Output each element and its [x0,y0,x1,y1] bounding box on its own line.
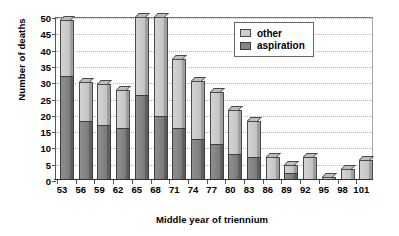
bar-side-face-aspiration [70,76,74,180]
bar-side-face-other [89,82,93,121]
plot-area: 05101520253035404550 [55,17,373,180]
bar-segment-aspiration [79,121,90,180]
x-axis-title: Middle year of triennium [52,214,372,225]
gridline [56,67,372,68]
bar-side-face-other [276,157,280,180]
bar-segment-other [266,157,277,180]
bar-segment-other [228,110,239,154]
y-tick-label: 25 [40,94,56,105]
legend-label-other: other [257,28,282,39]
bar-segment-aspiration [97,125,108,180]
y-tick-label: 50 [40,13,56,24]
y-tick-label: 10 [40,143,56,154]
bar-column [60,20,71,180]
bar-side-face-aspiration [257,157,261,180]
bar-side-face-other [369,160,373,180]
gridline [56,34,372,35]
bar-column [97,84,108,180]
bar-segment-other [303,157,314,180]
bar-segment-aspiration [135,95,146,180]
bar-column [303,157,314,180]
x-tick-label: 101 [350,184,372,195]
bar-side-face-aspiration [238,154,242,180]
bar-side-face-other [313,157,317,180]
chart-legend: other aspiration [234,22,314,57]
gridline [56,18,372,19]
bar-column [135,17,146,180]
bar-column [284,165,295,180]
y-tick-label: 15 [40,127,56,138]
bar-segment-other [79,82,90,121]
legend-item-other: other [240,28,305,39]
bar-side-face-other [220,92,224,144]
legend-swatch-aspiration-icon [240,42,251,50]
bar-segment-other [284,165,295,173]
bar-column [247,121,258,180]
bar-column [154,17,165,180]
bar-segment-aspiration [228,154,239,180]
bar-side-face-other [164,17,168,116]
bar-segment-other [154,17,165,116]
bar-side-face-other [182,59,186,127]
y-tick-label: 20 [40,110,56,121]
bar-segment-aspiration [116,128,127,180]
bar-segment-other [97,84,108,125]
bar-segment-other [247,121,258,157]
bar-segment-aspiration [210,144,221,180]
bar-side-face-aspiration [164,116,168,180]
bar-side-face-other [126,90,130,127]
bar-column [359,160,370,180]
bar-column [266,157,277,180]
bar-column [228,110,239,180]
bar-side-face-aspiration [89,121,93,180]
y-tick-label: 45 [40,29,56,40]
bar-segment-other [210,92,221,144]
bar-segment-other [60,20,71,75]
bar-segment-other [172,59,183,127]
bar-column [116,90,127,180]
bar-side-face-other [70,20,74,75]
bar-side-face-aspiration [126,128,130,180]
bar-side-face-other [107,84,111,125]
bar-side-face-other [238,110,242,154]
bar-segment-aspiration [247,157,258,180]
chart-container: Number of deaths Middle year of trienniu… [0,0,399,236]
bar-side-face-aspiration [107,125,111,180]
bar-side-face-aspiration [145,95,149,180]
bar-segment-other [135,17,146,95]
legend-swatch-other-icon [240,29,251,37]
bar-column [172,59,183,180]
bar-segment-other [191,81,202,140]
legend-label-aspiration: aspiration [257,40,305,51]
legend-item-aspiration: aspiration [240,40,305,51]
bar-side-face-other [294,165,298,173]
bar-side-face-other [145,17,149,95]
bar-segment-aspiration [172,128,183,180]
bar-side-face-other [201,81,205,140]
bar-side-face-aspiration [201,139,205,180]
y-tick-label: 5 [46,159,56,170]
bar-segment-aspiration [154,116,165,180]
bar-column [191,81,202,180]
bar-segment-aspiration [191,139,202,180]
bar-segment-other [359,160,370,180]
bar-side-face-other [257,121,261,157]
bar-side-face-aspiration [220,144,224,180]
y-axis-title: Number of deaths [16,0,27,125]
bar-segment-other [116,90,127,127]
bar-column [79,82,90,180]
y-tick-label: 30 [40,78,56,89]
x-axis-line [54,179,372,180]
y-tick-label: 35 [40,61,56,72]
bar-segment-aspiration [60,76,71,180]
y-tick-label: 40 [40,45,56,56]
bar-side-face-aspiration [182,128,186,180]
gridline [56,51,372,52]
bar-column [210,92,221,180]
